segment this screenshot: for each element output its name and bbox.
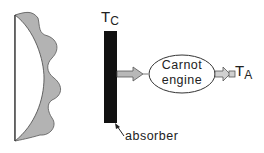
concentrator xyxy=(15,12,61,141)
absorber-temperature-label: TC xyxy=(101,8,119,28)
heat-flow-arrow-in xyxy=(117,67,148,81)
absorber-label: absorber xyxy=(125,129,178,143)
carnot-engine-label: Carnot engine xyxy=(150,58,214,88)
absorber-pointer-arrow xyxy=(115,123,124,136)
ambient-temperature-label: TA xyxy=(235,62,252,82)
carnot-engine-label-line2: engine xyxy=(150,73,214,88)
carnot-engine-label-line1: Carnot xyxy=(150,58,214,73)
heat-flow-arrow-out xyxy=(215,67,235,81)
absorber-bar xyxy=(104,31,117,123)
